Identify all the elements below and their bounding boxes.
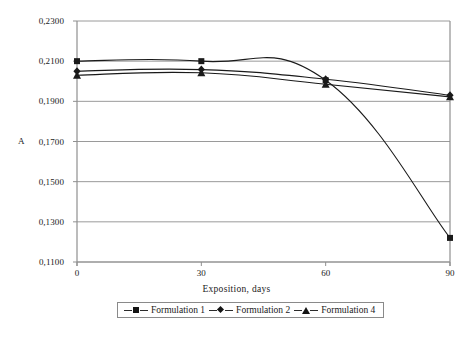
legend-marker-square-icon	[123, 305, 149, 315]
data-point-marker	[74, 58, 80, 64]
series-line	[77, 58, 450, 238]
legend-entry[interactable]: Formulation 1	[123, 305, 208, 315]
legend-label: Formulation 2	[234, 305, 293, 315]
x-axis-title: Exposition, days	[0, 284, 473, 294]
legend-marker-triangle-icon	[293, 305, 319, 315]
legend-label: Formulation 1	[149, 305, 208, 315]
data-point-marker	[198, 58, 204, 64]
legend-entry[interactable]: Formulation 4	[293, 305, 378, 315]
data-point-marker	[447, 235, 453, 241]
chart-legend: Formulation 1Formulation 2Formulation 4	[117, 302, 384, 318]
legend-entry[interactable]: Formulation 2	[208, 305, 293, 315]
chart-container: A 0,23000,21000,19000,17000,15000,13000,…	[0, 0, 473, 342]
legend-marker-diamond-icon	[208, 305, 234, 315]
legend-label: Formulation 4	[319, 305, 378, 315]
series-line	[77, 72, 450, 97]
